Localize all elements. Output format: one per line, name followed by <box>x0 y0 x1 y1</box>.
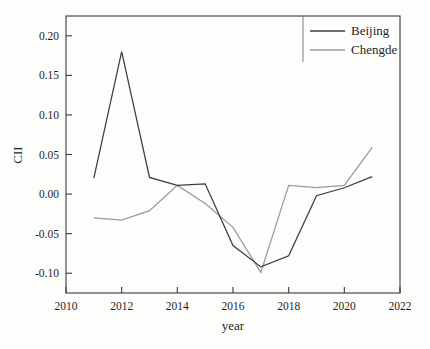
plot-frame <box>66 16 400 293</box>
y-tick-label: -0.05 <box>35 228 59 240</box>
line-chart-svg: 2010201220142016201820202022 -0.10-0.050… <box>0 0 430 349</box>
x-tick-label: 2020 <box>333 300 356 312</box>
series-line-chengde <box>94 147 372 272</box>
chart-figure: 2010201220142016201820202022 -0.10-0.050… <box>0 0 430 349</box>
legend-label-beijing: Beijing <box>351 23 390 38</box>
x-tick-label: 2012 <box>110 300 133 312</box>
x-tick-label: 2010 <box>55 300 78 312</box>
legend-label-chengde: Chengde <box>351 42 397 57</box>
x-axis-tick-labels: 2010201220142016201820202022 <box>55 300 412 312</box>
x-tick-label: 2018 <box>277 300 300 312</box>
x-axis-tick-marks <box>66 287 400 293</box>
y-tick-label: 0.15 <box>39 69 59 81</box>
y-tick-label: 0.05 <box>39 149 59 161</box>
chart-legend: Beijing Chengde <box>303 16 397 62</box>
y-axis-tick-marks <box>66 36 72 273</box>
y-tick-label: 0.20 <box>39 30 59 42</box>
y-tick-label: 0.10 <box>39 109 59 121</box>
y-tick-label: -0.10 <box>35 267 59 279</box>
y-tick-label: 0.00 <box>39 188 59 200</box>
y-axis-tick-labels: -0.10-0.050.000.050.100.150.20 <box>35 30 59 279</box>
data-series-group <box>94 52 372 273</box>
x-tick-label: 2016 <box>222 300 245 312</box>
x-tick-label: 2022 <box>389 300 412 312</box>
x-tick-label: 2014 <box>166 300 189 312</box>
x-axis-title: year <box>222 318 245 333</box>
y-axis-title: CII <box>10 146 25 163</box>
series-line-beijing <box>94 52 372 267</box>
